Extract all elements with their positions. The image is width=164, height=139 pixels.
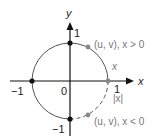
lower-point-label: (u, v), x < 0 <box>94 116 145 127</box>
x-axis-label: x <box>137 75 144 87</box>
arc-lower-label: |x| <box>113 93 123 104</box>
point-top <box>67 40 72 45</box>
point-upper-uv <box>86 45 91 50</box>
y-tick-pos: 1 <box>74 27 80 39</box>
point-bottom <box>67 116 72 121</box>
unit-circle-diagram: y x 1 −1 0 1 −1 (u, v), x > 0 x |x| (u, … <box>0 0 164 139</box>
y-axis-arrow-icon <box>67 22 74 30</box>
upper-point-label: (u, v), x > 0 <box>94 39 145 50</box>
point-left <box>29 78 34 83</box>
arc-upper-label: x <box>111 61 118 72</box>
point-right <box>106 79 111 84</box>
y-tick-neg: −1 <box>52 123 65 135</box>
x-tick-neg: −1 <box>11 85 24 97</box>
x-axis-arrow-icon <box>126 78 134 85</box>
origin-label: 0 <box>61 85 67 97</box>
point-lower-uv <box>86 113 91 118</box>
y-axis-label: y <box>65 7 73 19</box>
